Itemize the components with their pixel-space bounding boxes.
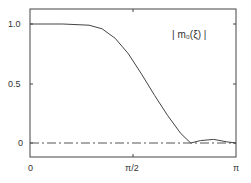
curve-annotation: | m₀(ξ) | [172,29,206,40]
y-tick-label-0: 0 [18,138,23,148]
chart-plot [0,0,251,183]
y-tick-label-05: 0.5 [8,79,21,89]
x-tick-label-0: 0 [28,163,33,173]
data-curve [30,24,236,143]
x-tick-label-pi2: π/2 [125,163,139,173]
x-tick-label-pi: π [233,163,239,173]
y-tick-label-1: 1.0 [8,19,21,29]
